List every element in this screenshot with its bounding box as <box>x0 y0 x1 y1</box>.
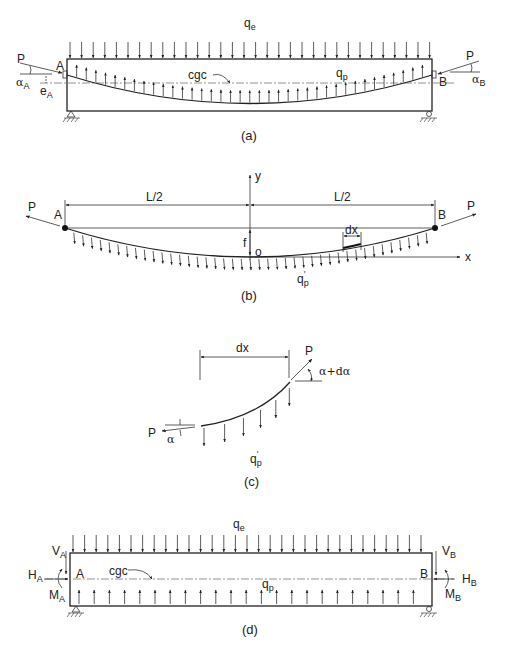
cable-element <box>201 382 290 426</box>
cgc-label: cgc <box>109 564 128 578</box>
dx-label: dx <box>236 341 249 355</box>
load-arrow <box>276 258 277 269</box>
alpha-a-arc <box>30 66 31 74</box>
prestress-load-diagram: qe cgc qp P A αA eA P B αB <box>0 0 508 652</box>
load-arrow <box>197 257 198 268</box>
panel-b: y x L/2 L/2 f o dx A B P P qp′ (b) <box>26 169 476 303</box>
a-label: A <box>76 567 84 581</box>
p-left-label: P <box>28 200 36 214</box>
qp-label: qp <box>262 577 274 593</box>
ea-label: eA <box>40 84 53 100</box>
panel-c: dx P α+dα P α qp′ (c) <box>148 341 351 489</box>
caption-b: (b) <box>241 288 257 303</box>
qp-prime-label: qp′ <box>297 269 309 288</box>
panel-a: qe cgc qp P A αA eA P B αB <box>16 16 485 143</box>
dx-label: dx <box>345 223 358 237</box>
load-arrow <box>294 257 295 268</box>
equivalent-load-arrows <box>79 590 413 604</box>
load-arrow <box>144 250 145 261</box>
pin-support-a-icon <box>67 606 84 617</box>
load-arrow <box>118 244 119 255</box>
load-arrow <box>303 257 304 268</box>
caption-a: (a) <box>241 128 257 143</box>
cable-load-arrows <box>74 233 427 270</box>
a-label: A <box>54 208 62 222</box>
p-left-arrow <box>162 427 195 431</box>
load-arrow <box>409 238 410 249</box>
load-arrow <box>232 259 233 270</box>
anchor-a-point <box>62 225 68 231</box>
ma-label: MA <box>49 588 65 604</box>
load-arrow <box>153 251 154 262</box>
load-arrow <box>135 248 136 259</box>
load-arrow <box>382 244 383 255</box>
load-arrow <box>91 238 92 249</box>
p-right-label: P <box>305 344 313 358</box>
external-load-arrows <box>73 535 421 552</box>
hb-label: HB <box>462 572 477 588</box>
va-label: VA <box>52 544 66 560</box>
vb-label: VB <box>442 544 456 560</box>
b-label: B <box>438 208 446 222</box>
b-label: B <box>420 567 428 581</box>
qe-label: qe <box>233 517 245 533</box>
load-arrow <box>391 242 392 253</box>
load-arrow <box>215 258 216 269</box>
qe-label: qe <box>244 16 256 32</box>
alpha-label: α <box>167 433 175 446</box>
p-right-label: P <box>467 199 475 213</box>
a-label: A <box>56 59 64 73</box>
cgc-label: cgc <box>188 68 207 82</box>
load-arrow <box>347 251 348 262</box>
roller-support-b-icon <box>420 112 437 123</box>
load-arrow <box>171 254 172 265</box>
load-arrow <box>312 256 313 267</box>
load-arrow <box>206 257 207 268</box>
load-arrow <box>241 259 242 270</box>
p-right-label: P <box>466 49 474 63</box>
load-arrow <box>356 250 357 261</box>
half-span-right-label: L/2 <box>334 190 351 204</box>
load-arrow <box>127 246 128 257</box>
x-axis-label: x <box>465 250 471 264</box>
load-arrow <box>285 258 286 269</box>
load-arrow <box>320 255 321 266</box>
half-span-left-label: L/2 <box>146 190 163 204</box>
load-arrow <box>74 233 75 244</box>
alpha-b-label: αB <box>472 73 485 88</box>
load-arrow <box>188 256 189 267</box>
load-arrow <box>83 235 84 246</box>
external-load-arrows <box>70 42 430 58</box>
alpha-plus-label: α+dα <box>319 365 351 378</box>
equivalent-load-arrows <box>77 65 423 103</box>
qp-label: qp <box>336 66 348 82</box>
load-arrow <box>338 252 339 263</box>
load-arrow <box>259 259 260 270</box>
alpha-b-arc <box>471 64 472 72</box>
b-label: B <box>439 75 447 89</box>
caption-c: (c) <box>244 474 259 489</box>
load-arrow <box>250 259 251 270</box>
load-arrow <box>100 240 101 251</box>
roller-support-b-icon <box>420 607 437 618</box>
load-arrow <box>268 259 269 270</box>
qp-prime-label: qp′ <box>250 449 262 468</box>
ma-arrow <box>58 569 62 588</box>
load-arrow <box>109 242 110 253</box>
alpha-right-arc <box>308 369 312 381</box>
cgc-pointer <box>128 570 152 579</box>
sag-label: f <box>243 236 247 250</box>
load-arrow <box>180 255 181 266</box>
p-right-arrow <box>441 214 476 226</box>
load-arrow <box>417 235 418 246</box>
caption-d: (d) <box>242 622 258 637</box>
load-arrow <box>224 258 225 269</box>
alpha-left-arc <box>180 419 181 436</box>
load-arrow <box>426 233 427 244</box>
cgc-pointer <box>213 74 230 83</box>
load-arrow <box>373 246 374 257</box>
anchor-b-point <box>432 225 438 231</box>
pin-support-a-icon <box>63 111 80 122</box>
y-axis-label: y <box>255 169 261 183</box>
load-arrow <box>329 254 330 265</box>
